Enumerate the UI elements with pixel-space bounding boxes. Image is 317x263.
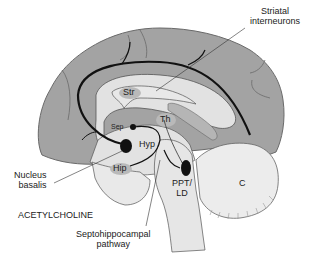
septohippocampal-label: Septohippocampal pathway [76,229,151,250]
brain-illustration [0,0,317,263]
diagram-title: ACETYLCHOLINE [18,210,93,220]
label-line: basalis [14,180,47,190]
hyp-label: Hyp [139,139,155,149]
label-line: Striatal [250,6,300,16]
ppt-ld-label: PPT/ LD [172,178,192,199]
nucleus-basalis-label: Nucleus basalis [14,170,47,191]
sep-label: Sep [111,123,123,131]
cerebellum-label: C [239,178,246,188]
label-line: Nucleus [14,170,47,180]
hip-label: Hip [113,163,127,173]
label-line: interneurons [250,16,300,26]
striatal-interneurons-label: Striatal interneurons [250,6,300,27]
label-line: Septohippocampal [76,229,151,239]
label-line: pathway [76,239,151,249]
ppt-ld-dot [181,160,191,176]
str-label: Str [123,87,135,97]
label-line: PPT/ [172,178,192,188]
brain-diagram: Striatal interneurons Str Th Sep Hyp Hip… [0,0,317,263]
septum-dot [130,124,136,130]
th-label: Th [160,114,171,124]
cerebellum [196,143,278,218]
label-line: LD [172,188,192,198]
